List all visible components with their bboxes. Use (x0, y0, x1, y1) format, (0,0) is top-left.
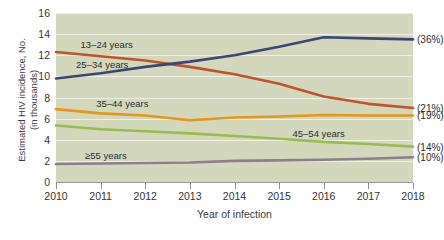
series-line (56, 125, 413, 146)
series-percent-label: (36%) (417, 34, 444, 45)
series-percent-label: (19%) (417, 110, 444, 121)
series-label: 13–24 years (81, 39, 133, 50)
series-percent-label: (14%) (417, 141, 444, 152)
series-label: 35–44 years (96, 98, 148, 109)
series-line (56, 109, 413, 120)
series-percent-label: (10%) (417, 152, 444, 163)
x-axis-title: Year of infection (56, 208, 413, 220)
series-label: ≥55 years (85, 150, 127, 161)
series-label: 45–54 years (293, 128, 345, 139)
series-label: 25–34 years (76, 59, 128, 70)
